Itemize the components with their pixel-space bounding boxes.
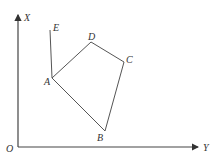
origin-label: O	[6, 143, 13, 154]
segment-ea	[50, 30, 52, 78]
diagram-canvas: X Y O E D C A B	[0, 0, 216, 163]
vertical-axis-label: X	[23, 12, 31, 23]
point-label-e: E	[52, 22, 59, 33]
point-label-c: C	[126, 54, 133, 65]
point-label-b: B	[97, 132, 103, 143]
point-label-a: A	[43, 76, 51, 87]
horizontal-axis-label: Y	[203, 142, 210, 153]
point-label-d: D	[87, 31, 96, 42]
quadrilateral-abcd	[52, 42, 124, 131]
